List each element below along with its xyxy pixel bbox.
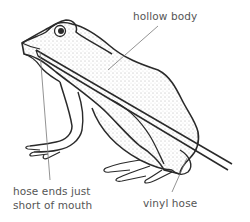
frog-front-leg (30, 82, 72, 146)
label-hose-ends: hose ends just short of mouth (13, 184, 92, 212)
label-hose-ends-line2: short of mouth (13, 198, 92, 212)
label-hollow-body: hollow body (133, 9, 197, 23)
label-hose-ends-line1: hose ends just (13, 184, 92, 198)
label-vinyl-hose: vinyl hose (143, 196, 197, 210)
